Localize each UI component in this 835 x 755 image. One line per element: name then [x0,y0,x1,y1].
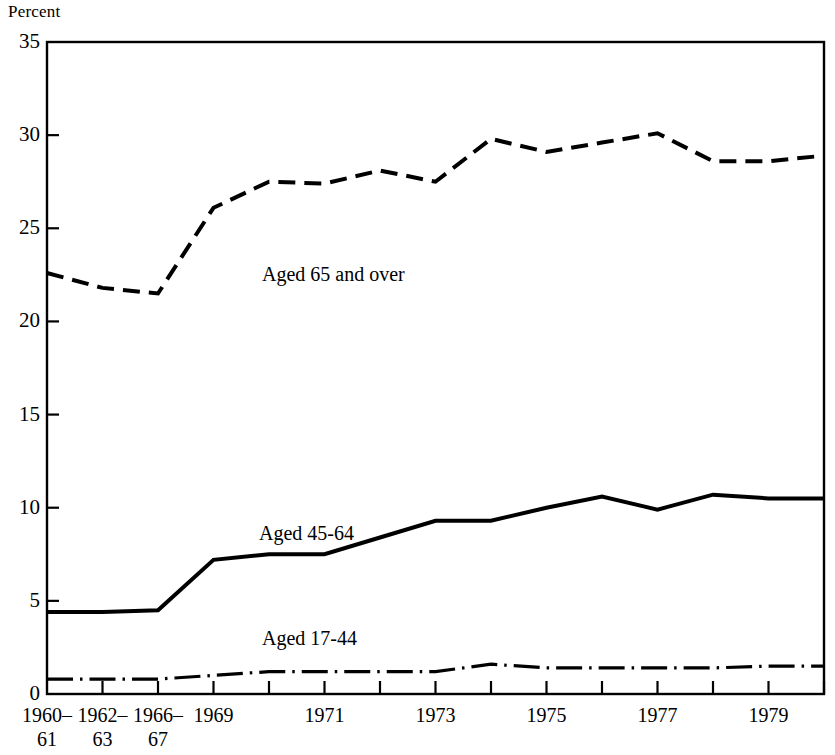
x-tick-label: 1969 [159,704,269,728]
x-tick-label: 1979 [714,704,824,728]
y-tick-label: 15 [0,404,40,425]
y-axis-ticks [47,135,59,601]
y-tick-label: 5 [0,590,40,611]
series-line-1 [47,495,824,612]
y-tick-label: 0 [0,683,40,704]
x-tick-label: 1975 [492,704,602,728]
y-tick-label: 35 [0,31,40,52]
y-tick-label: 20 [0,310,40,331]
series-line-0 [47,133,824,293]
y-tick-label: 10 [0,497,40,518]
series-label-1: Aged 45-64 [259,523,354,543]
series-line-2 [47,664,824,679]
x-axis-ticks [103,681,825,694]
plot-frame [47,42,824,694]
series-label-2: Aged 17-44 [262,628,357,648]
y-tick-label: 30 [0,124,40,145]
plot-area [0,0,835,755]
series-label-0: Aged 65 and over [262,264,405,284]
y-tick-label: 25 [0,217,40,238]
x-tick-label: 1971 [270,704,380,728]
x-tick-label: 1973 [381,704,491,728]
chart-container: Percent 05101520253035 1960– 611962– 631… [0,0,835,755]
x-tick-label: 1977 [603,704,713,728]
plot-border [47,42,824,694]
series-lines [47,133,824,679]
